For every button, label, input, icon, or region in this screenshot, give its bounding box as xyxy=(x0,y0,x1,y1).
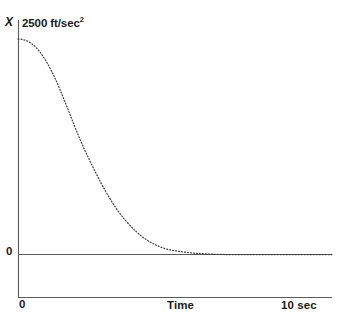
x-axis-title: Time xyxy=(167,300,194,312)
peak-value-exponent: 2 xyxy=(80,15,84,24)
decay-curve xyxy=(18,39,332,255)
peak-value-text: 2500 ft/sec xyxy=(22,17,80,29)
x-axis-tick-zero: 0 xyxy=(19,299,25,311)
peak-value-annotation: 2500 ft/sec2 xyxy=(22,18,84,30)
chart-canvas xyxy=(0,0,337,323)
y-axis-label: X xyxy=(5,16,13,28)
acceleration-decay-chart: X 2500 ft/sec2 0 0 Time 10 sec xyxy=(0,0,337,323)
x-axis-tick-max: 10 sec xyxy=(281,300,317,312)
y-axis-tick-zero: 0 xyxy=(6,246,12,258)
